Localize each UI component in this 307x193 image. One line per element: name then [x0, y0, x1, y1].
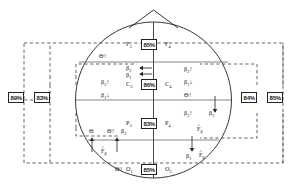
annotation-fhat-right-mid: ^Fβ — [197, 126, 203, 135]
pct-box-central[interactable]: 86% — [141, 79, 157, 90]
electrode-label-O1: O1 — [126, 166, 133, 175]
annotation-beta1-bottom-right: β1 — [186, 153, 191, 162]
elbow-right-upper — [200, 64, 257, 73]
pct-box-left-outer[interactable]: 89% — [8, 92, 24, 103]
annotation-theta-lower-left-2: Θ↑ — [107, 128, 115, 135]
annotation-fhat-lower-left: ^Fβ — [101, 148, 107, 157]
annotation-beta2-right-lower: β2↑ — [184, 110, 193, 119]
electrode-label-O2: O2 — [165, 166, 172, 175]
elbow-right-lower — [200, 130, 257, 138]
pct-box-right-inner[interactable]: 84% — [241, 92, 257, 103]
pct-box-parietal[interactable]: 83% — [141, 118, 157, 129]
annotation-beta2-lower-left: β2 — [121, 128, 126, 137]
annotation-beta1-right-upper: β1↓ — [184, 79, 193, 88]
electrode-label-C4: C4 — [165, 81, 171, 90]
annotation-fhat-bottom-right: ^Fβ — [199, 152, 205, 161]
annotation-beta2-left-mid: β2↑ — [101, 79, 110, 88]
electrode-label-F3: F3 — [126, 41, 132, 50]
arrow-down-right-beta1 — [190, 136, 195, 152]
annotation-beta1-left-mid: β1↓ — [101, 92, 110, 101]
arrow-left-beta1-top — [139, 72, 152, 76]
annotation-beta2-right-upper: β2↑ — [184, 66, 193, 75]
pct-box-left-inner[interactable]: 83% — [34, 92, 50, 103]
arrow-left-beta2-top — [139, 66, 152, 70]
annotation-theta-upper-left: Θ↑ — [99, 53, 107, 62]
electrode-label-F4: F4 — [165, 41, 171, 50]
electrode-label-P3: P3 — [126, 120, 132, 129]
pct-box-right-outer[interactable]: 85% — [267, 92, 283, 103]
annotation-beta1-top-center: β1 — [126, 72, 131, 81]
annotation-theta-right-mid: Θ↑ — [184, 92, 192, 101]
electrode-label-C3: C3 — [126, 81, 132, 90]
annotation-theta-bottom: Θ↑ — [115, 166, 123, 173]
annotation-beta2-right-edge: β2 — [209, 110, 214, 119]
annotation-theta-lower-left-1: Θ — [89, 128, 93, 134]
pct-box-frontal[interactable]: 85% — [141, 39, 157, 50]
diagram-canvas: 89% 83% 84% 85% 85% 86% 83% 85% F3 F4 C3… — [0, 0, 307, 193]
pct-box-occipital[interactable]: 85% — [141, 164, 157, 175]
electrode-label-P4: P4 — [165, 120, 171, 129]
